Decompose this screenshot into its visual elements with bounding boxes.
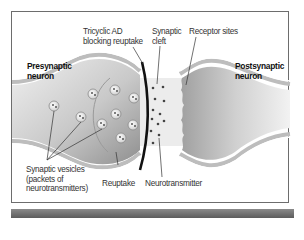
tricyclic-line-2: blocking reuptake [83,37,143,47]
bottom-bar [11,209,294,218]
presynaptic-line-2: neuron [27,72,72,82]
synaptic-vesicles-label: Synaptic vesicles (packets of neurotrans… [26,165,88,194]
cleft-line-1: Synaptic [152,27,181,37]
vesicles-line-2: (packets of [26,175,88,185]
synaptic-cleft-label: Synaptic cleft [152,27,181,46]
tricyclic-label: Tricyclic AD blocking reuptake [83,27,143,46]
postsynaptic-neuron-label: Postsynaptic neuron [235,62,284,81]
vesicles-line-1: Synaptic vesicles [26,165,88,175]
presynaptic-neuron-label: Presynaptic neuron [27,62,72,81]
cleft-line-2: cleft [152,37,181,47]
tricyclic-line-1: Tricyclic AD [83,27,143,37]
vesicles-line-3: neurotransmitters) [26,184,88,194]
reuptake-label: Reuptake [102,179,135,189]
neurotransmitter-label: Neurotransmitter [145,179,202,189]
receptor-sites-label: Receptor sites [189,27,238,37]
postsynaptic-line-2: neuron [235,72,284,82]
